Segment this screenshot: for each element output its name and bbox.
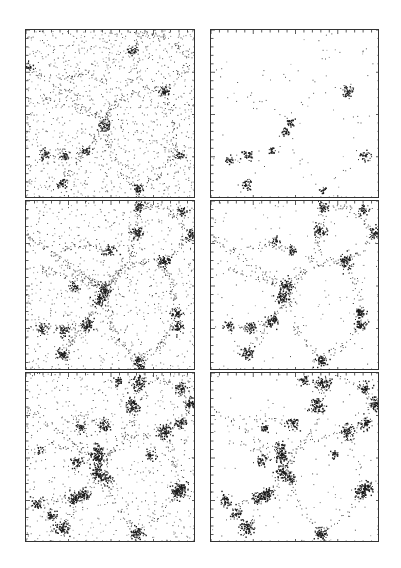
particle-plot	[211, 201, 379, 370]
particle-plot	[26, 201, 195, 370]
panel-row3-right	[210, 372, 379, 542]
particle-plot	[211, 373, 379, 542]
particle-plot	[26, 373, 195, 542]
panel-row2-left	[25, 200, 195, 370]
particle-plot	[26, 30, 195, 198]
panel-row1-left	[25, 29, 195, 198]
panel-row2-right	[210, 200, 379, 370]
panel-row1-right	[210, 29, 379, 198]
panel-row3-left	[25, 372, 195, 542]
figure	[0, 0, 401, 568]
particle-plot	[211, 30, 379, 198]
